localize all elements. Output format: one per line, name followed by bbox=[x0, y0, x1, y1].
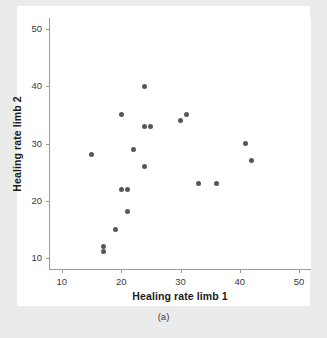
data-point bbox=[142, 164, 147, 169]
x-tick-mark bbox=[121, 269, 122, 273]
y-tick-mark bbox=[46, 144, 50, 145]
y-tick-label: 10 bbox=[20, 252, 42, 263]
y-tick-label: 40 bbox=[20, 80, 42, 91]
data-point bbox=[243, 141, 248, 146]
data-point bbox=[184, 112, 189, 117]
scatter-plot-figure: 1020304050 1020304050 Healing rate limb … bbox=[0, 0, 327, 338]
figure-caption: (a) bbox=[0, 311, 327, 322]
y-tick-mark bbox=[46, 258, 50, 259]
data-point bbox=[196, 181, 201, 186]
x-tick-label: 20 bbox=[108, 276, 134, 287]
data-point bbox=[89, 152, 94, 157]
data-point bbox=[131, 147, 136, 152]
data-point bbox=[125, 187, 130, 192]
x-tick-label: 10 bbox=[49, 276, 75, 287]
data-point bbox=[142, 124, 147, 129]
x-tick-mark bbox=[240, 269, 241, 273]
y-tick-label: 30 bbox=[20, 138, 42, 149]
data-point bbox=[178, 118, 183, 123]
data-point bbox=[113, 227, 118, 232]
x-tick-label: 30 bbox=[168, 276, 194, 287]
x-axis-title: Healing rate limb 1 bbox=[49, 290, 311, 302]
data-point bbox=[142, 84, 147, 89]
data-point bbox=[101, 249, 106, 254]
y-tick-mark bbox=[46, 201, 50, 202]
data-point bbox=[119, 187, 124, 192]
plot-area: 1020304050 1020304050 bbox=[49, 18, 311, 270]
data-point bbox=[101, 244, 106, 249]
y-tick-label: 20 bbox=[20, 195, 42, 206]
y-tick-mark bbox=[46, 29, 50, 30]
data-points-layer bbox=[50, 18, 311, 269]
x-tick-label: 50 bbox=[286, 276, 312, 287]
x-tick-mark bbox=[181, 269, 182, 273]
x-tick-mark bbox=[299, 269, 300, 273]
data-point bbox=[125, 209, 130, 214]
data-point bbox=[214, 181, 219, 186]
x-tick-label: 40 bbox=[227, 276, 253, 287]
y-tick-label: 50 bbox=[20, 23, 42, 34]
x-tick-mark bbox=[62, 269, 63, 273]
y-tick-mark bbox=[46, 86, 50, 87]
data-point bbox=[148, 124, 153, 129]
data-point bbox=[249, 158, 254, 163]
data-point bbox=[119, 112, 124, 117]
y-axis-title: Healing rate limb 2 bbox=[11, 64, 23, 224]
